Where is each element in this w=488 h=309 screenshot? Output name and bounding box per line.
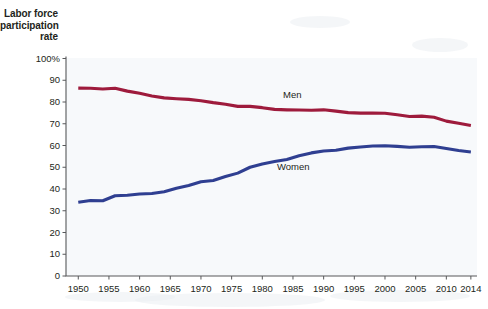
y-axis-title-line-3: rate [0,31,58,43]
y-axis-tick-label: 10 [20,249,60,259]
y-axis-tick-label: 40 [20,184,60,194]
y-axis-tick-label: 90 [20,75,60,85]
y-axis-tick-label: 0 [20,271,60,281]
y-axis-tick-label: 30 [20,206,60,216]
line-chart-svg [0,0,488,309]
x-axis-tick-label: 2014 [451,284,488,294]
y-axis-title-line-2: participation [0,20,58,32]
y-axis-tick-label: 50 [20,162,60,172]
y-axis-tick-label: 80 [20,97,60,107]
y-axis-title: Labor force participation rate [0,8,58,43]
y-axis-tick-label: 20 [20,228,60,238]
series-label-men: Men [283,89,301,100]
y-axis-tick-label: 60 [20,141,60,151]
y-axis-tick-label: 70 [20,119,60,129]
chart-container: Labor force participation rate 100%90807… [0,0,488,309]
y-axis-title-line-1: Labor force [0,8,58,20]
y-axis-tick-label: 100% [20,54,60,64]
series-label-women: Women [277,161,310,172]
